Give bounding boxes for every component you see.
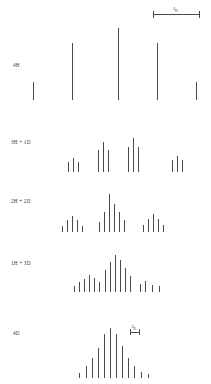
spectrum-stick bbox=[141, 372, 142, 378]
spectrum-stick bbox=[104, 334, 105, 378]
jd-cap-right bbox=[139, 329, 140, 335]
scale-bar-label-subscript: H bbox=[175, 9, 178, 13]
spectrum-stick bbox=[79, 373, 80, 378]
scale-bar-label: JH bbox=[173, 6, 178, 13]
scale-bar-jd: JD bbox=[130, 327, 139, 339]
spectrum-stick bbox=[92, 358, 93, 378]
scale-bar-cap-left bbox=[153, 11, 154, 18]
spectrum-stick bbox=[128, 358, 129, 378]
stick-group bbox=[0, 0, 211, 378]
spectrum-stick bbox=[122, 346, 123, 378]
spectrum-row: 4D bbox=[0, 0, 211, 384]
jd-label: JD bbox=[132, 324, 137, 331]
spectrum-stick bbox=[134, 366, 135, 378]
scale-bar-cap-right bbox=[199, 11, 200, 18]
spectrum-stick bbox=[116, 334, 117, 378]
scale-bar-jh: JH bbox=[153, 8, 199, 22]
spectrum-stick bbox=[148, 374, 149, 378]
spectrum-stick bbox=[86, 366, 87, 378]
spectrum-stick bbox=[98, 348, 99, 378]
jd-label-subscript: D bbox=[133, 327, 136, 331]
spectrum-stick bbox=[110, 328, 111, 378]
stick-spectrum-figure: 4H3H + 1D2H + 2D1H + 3D4DJHJD bbox=[0, 0, 211, 384]
scale-bar-line bbox=[153, 14, 199, 15]
jd-bar-line bbox=[130, 332, 139, 333]
